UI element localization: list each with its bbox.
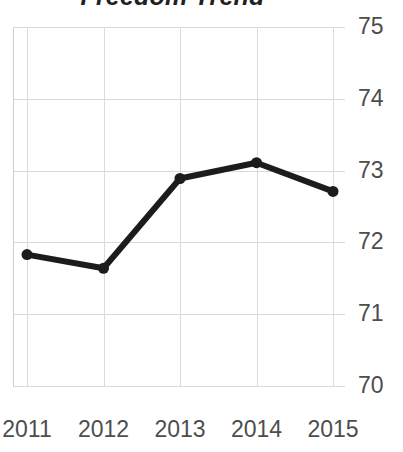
data-point-2014	[251, 157, 262, 168]
x-tick-label-2015: 2015	[288, 418, 378, 441]
y-tick-label-73: 73	[358, 159, 402, 182]
line-chart: Freedom Trend 757473727170 2011201220132…	[0, 0, 403, 452]
gridline-y-70	[13, 386, 345, 387]
y-tick-label-72: 72	[358, 230, 402, 253]
plot-area	[13, 27, 345, 386]
series-line-freedom-trend	[13, 27, 345, 386]
y-tick-label-71: 71	[358, 302, 402, 325]
data-point-2011	[22, 249, 33, 260]
data-point-2013	[175, 173, 186, 184]
chart-title: Freedom Trend	[0, 0, 345, 11]
data-point-2015	[328, 186, 339, 197]
data-point-2012	[98, 263, 109, 274]
y-tick-label-74: 74	[358, 87, 402, 110]
y-tick-label-75: 75	[358, 15, 402, 38]
y-tick-label-70: 70	[358, 374, 402, 397]
